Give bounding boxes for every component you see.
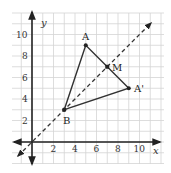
- y-tick: 10: [16, 30, 28, 40]
- label-A-prime: A': [133, 83, 144, 94]
- point-B: [62, 108, 66, 112]
- label-B: B: [63, 115, 70, 126]
- label-A: A: [81, 31, 90, 42]
- x-tick: 2: [51, 144, 57, 154]
- x-tick: 10: [134, 144, 146, 154]
- y-axis-label: y: [40, 17, 47, 28]
- point-A-prime: [127, 86, 131, 90]
- x-tick: 6: [94, 144, 100, 154]
- label-M: M: [112, 62, 122, 73]
- coordinate-plane: A M A' B y x 2 4 6 8 10 2 4 6 8 10: [0, 0, 171, 173]
- y-tick: 8: [22, 51, 28, 61]
- y-tick: 4: [22, 94, 28, 104]
- y-tick: 2: [22, 116, 28, 126]
- point-A: [84, 43, 88, 47]
- y-tick: 6: [22, 73, 28, 83]
- point-M: [105, 65, 109, 69]
- dashed-line-y-equals-x: [18, 23, 151, 156]
- x-tick: 8: [115, 144, 121, 154]
- x-axis-label: x: [153, 145, 159, 156]
- x-tick: 4: [72, 144, 78, 154]
